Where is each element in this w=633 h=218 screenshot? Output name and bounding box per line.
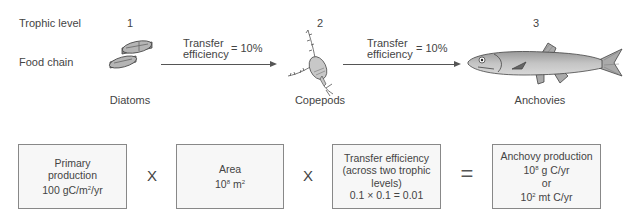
trophic-level-label: Trophic level — [19, 17, 81, 29]
transfer-label-line2: efficiency — [367, 49, 413, 60]
organism-label-copepods: Copepods — [290, 94, 350, 106]
value-main: 10 — [524, 164, 536, 176]
value-tail: m — [230, 178, 242, 190]
box-line: (across two trophic — [342, 164, 430, 177]
multiply-operator-1: X — [142, 167, 162, 184]
box-or: or — [542, 177, 551, 190]
box-transfer-efficiency: Transfer efficiency (across two trophic … — [332, 144, 441, 209]
transfer-efficiency-value-1: = 10% — [231, 42, 263, 54]
arrow-line-2 — [343, 64, 455, 65]
copepod-icon — [280, 26, 340, 98]
box-line: Primary — [54, 157, 90, 170]
organism-label-diatoms: Diatoms — [100, 94, 160, 106]
box-value: 100 gC/m2/yr — [42, 182, 103, 197]
organism-label-anchovies: Anchovies — [500, 94, 580, 106]
arrow-head-2 — [454, 61, 461, 67]
value-tail: /yr — [91, 184, 103, 196]
value-main: 100 gC/m — [42, 184, 88, 196]
box-title: Anchovy production — [500, 150, 592, 163]
box-primary-production: Primary production 100 gC/m2/yr — [18, 144, 127, 209]
value-sup2: 2 — [242, 179, 245, 185]
arrow-line-1 — [161, 64, 271, 65]
box-anchovy-production: Anchovy production 108 g C/yr or 102 mt … — [492, 144, 601, 209]
box-value-mt: 102 mt C/yr — [521, 189, 573, 204]
transfer-label-line2: efficiency — [183, 49, 229, 60]
transfer-efficiency-value-2: = 10% — [416, 42, 448, 54]
anchovy-icon — [464, 38, 624, 88]
value-main: 10 — [215, 178, 227, 190]
level-number-1: 1 — [120, 17, 140, 29]
box-line: Area — [219, 163, 241, 176]
value-tail: g C/yr — [539, 164, 570, 176]
box-line: levels) — [371, 177, 401, 190]
level-number-3: 3 — [526, 17, 546, 29]
box-line: 0.1 × 0.1 = 0.01 — [350, 189, 424, 202]
box-value: 108 m2 — [215, 176, 245, 191]
box-line: production — [48, 169, 97, 182]
transfer-efficiency-label-2: Transfer efficiency — [367, 38, 413, 60]
food-chain-label: Food chain — [19, 56, 73, 68]
box-line: Transfer efficiency — [344, 152, 429, 165]
box-area: Area 108 m2 — [176, 144, 284, 209]
value-main: 10 — [521, 191, 533, 203]
arrow-head-1 — [270, 61, 277, 67]
equals-operator: = — [456, 161, 478, 187]
diatoms-icon — [106, 38, 156, 78]
value-tail: mt C/yr — [536, 191, 573, 203]
transfer-efficiency-label-1: Transfer efficiency — [183, 38, 229, 60]
box-value-gc: 108 g C/yr — [524, 162, 570, 177]
multiply-operator-2: X — [298, 167, 318, 184]
